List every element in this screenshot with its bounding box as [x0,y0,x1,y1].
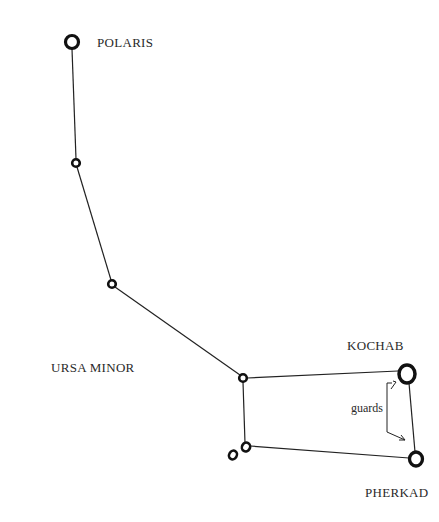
star-polaris [66,36,79,49]
constellation-lines [72,49,415,458]
star-8 [227,449,238,461]
label-pherkad: PHERKAD [365,485,429,501]
arrowhead-up-icon [391,381,396,389]
line-star2-star3 [77,167,111,280]
line-star4-kochab [247,371,398,378]
ursa-minor-diagram [0,0,439,522]
line-star7-star4 [243,382,245,443]
label-kochab: KOCHAB [347,338,404,354]
star-3 [108,280,116,288]
star-7 [240,441,251,453]
star-2 [72,159,80,167]
line-pherkad-star7 [250,446,409,458]
star-pherkad [410,452,423,466]
star-4 [239,374,247,382]
guards-arrow-line [387,383,405,440]
label-polaris: POLARIS [97,35,153,51]
line-kochab-pherkad [409,383,415,452]
line-polaris-star2 [72,49,76,159]
label-guards: guards [351,401,383,416]
star-kochab [399,365,415,383]
guards-arrow [387,381,405,440]
label-constellation: URSA MINOR [51,360,135,376]
